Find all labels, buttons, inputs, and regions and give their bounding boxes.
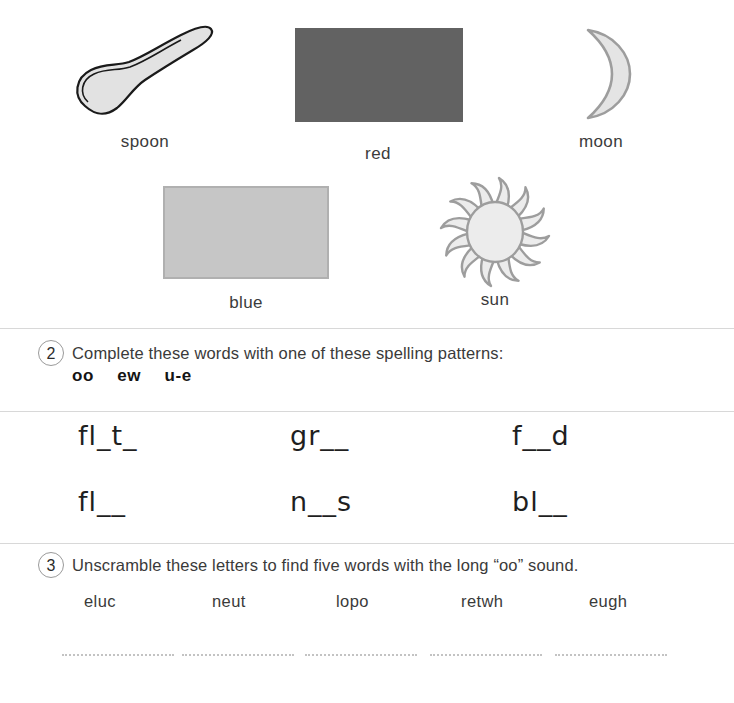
fill-in-word[interactable]: f__d <box>512 420 570 451</box>
fill-in-word[interactable]: fl__ <box>78 486 126 517</box>
picture-caption: sun <box>424 290 566 310</box>
picture-caption: spoon <box>55 132 235 152</box>
task-2-number: 2 <box>38 340 64 366</box>
task-3-header: 3 Unscramble these letters to find five … <box>0 552 734 577</box>
task-3: 3 Unscramble these letters to find five … <box>0 552 734 577</box>
answer-line[interactable] <box>62 654 174 656</box>
picture-caption: red <box>280 144 476 164</box>
picture-word-section: spoon red moon blue <box>0 0 734 328</box>
fill-in-word[interactable]: n__s <box>290 486 352 517</box>
crescent-moon-icon <box>530 18 672 128</box>
scrambled-word: eluc <box>84 592 116 611</box>
spoon-icon <box>55 18 235 128</box>
fill-in-word-grid: fl_t_ gr__ f__d fl__ n__s bl__ <box>0 420 734 552</box>
scrambled-word: eugh <box>589 592 627 611</box>
picture-caption: blue <box>148 293 344 313</box>
sun-icon <box>424 176 566 288</box>
picture-item-sun: sun <box>424 176 566 310</box>
spelling-pattern-ew: ew <box>117 366 141 385</box>
color-swatch-red-icon <box>280 18 476 128</box>
section-divider <box>0 411 734 412</box>
picture-caption: moon <box>530 132 672 152</box>
scrambled-word: lopo <box>336 592 369 611</box>
picture-item-red: red <box>280 18 476 164</box>
scrambled-words-row: eluc neut lopo retwh eugh <box>0 592 734 624</box>
task-2: 2 Complete these words with one of these… <box>0 340 734 365</box>
section-divider <box>0 543 734 544</box>
scrambled-word: neut <box>212 592 246 611</box>
fill-in-word[interactable]: gr__ <box>290 420 349 451</box>
scrambled-word: retwh <box>461 592 503 611</box>
answer-line[interactable] <box>555 654 667 656</box>
task-3-instruction: Unscramble these letters to find five wo… <box>72 552 579 577</box>
picture-item-spoon: spoon <box>55 18 235 152</box>
picture-item-blue: blue <box>148 176 344 313</box>
section-divider <box>0 328 734 329</box>
word-row: fl_t_ gr__ f__d <box>0 420 734 486</box>
task-2-instruction: Complete these words with one of these s… <box>72 340 503 365</box>
answer-line[interactable] <box>182 654 294 656</box>
task-3-number: 3 <box>38 552 64 578</box>
fill-in-word[interactable]: fl_t_ <box>78 420 138 451</box>
answer-line[interactable] <box>430 654 542 656</box>
fill-in-word[interactable]: bl__ <box>512 486 568 517</box>
spelling-patterns-list: oo ew u-e <box>72 366 192 386</box>
answer-lines <box>0 654 734 674</box>
spelling-pattern-u-e: u-e <box>165 366 192 385</box>
task-2-header: 2 Complete these words with one of these… <box>0 340 734 365</box>
spelling-pattern-oo: oo <box>72 366 94 385</box>
color-swatch-blue-icon <box>148 176 344 281</box>
picture-item-moon: moon <box>530 18 672 152</box>
worksheet-page: spoon red moon blue <box>0 0 734 703</box>
answer-line[interactable] <box>305 654 417 656</box>
